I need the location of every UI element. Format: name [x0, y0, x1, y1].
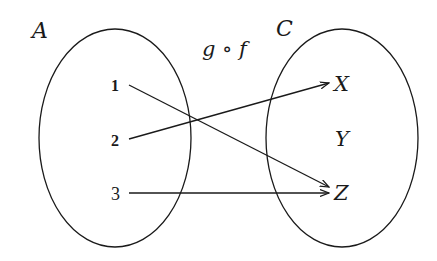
codomain-element-x: X: [332, 72, 350, 96]
codomain-element-z: Z: [333, 181, 349, 205]
domain-element-1: 1: [111, 77, 119, 94]
arrow-2-to-x: [129, 83, 329, 139]
domain-element-2: 2: [111, 132, 119, 149]
mapping-label: g ∘ f: [202, 37, 250, 61]
set-c-label: C: [276, 16, 293, 41]
function-composition-diagram: A C g ∘ f 1 2 3 X Y Z: [0, 0, 437, 261]
arrow-1-to-z: [129, 85, 329, 187]
codomain-element-y: Y: [335, 127, 351, 151]
domain-element-3: 3: [111, 184, 120, 204]
set-a-label: A: [30, 18, 48, 43]
